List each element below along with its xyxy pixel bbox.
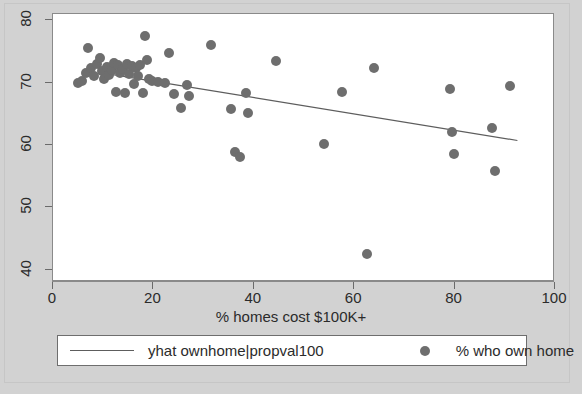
legend-label-scatter: % who own home <box>456 342 574 359</box>
scatter-point <box>206 40 216 50</box>
legend-label-fit-line: yhat ownhome|propval100 <box>148 342 324 359</box>
x-axis-tick <box>253 282 254 289</box>
scatter-point <box>241 88 251 98</box>
scatter-point <box>140 31 150 41</box>
y-axis-tick-label: 40 <box>17 251 34 285</box>
y-axis-tick-label: 70 <box>17 64 34 98</box>
y-axis-tick-label: 50 <box>17 189 34 223</box>
x-axis-tick-label: 100 <box>532 289 576 306</box>
y-axis-tick <box>45 82 52 83</box>
scatter-point <box>235 152 245 162</box>
x-axis-line <box>52 281 554 282</box>
x-axis-tick <box>454 282 455 289</box>
scatter-point <box>447 127 457 137</box>
scatter-point <box>120 88 130 98</box>
y-axis-line <box>52 13 53 281</box>
y-axis-tick-label: 80 <box>17 2 34 36</box>
scatter-point <box>95 53 105 63</box>
legend-line-swatch <box>70 350 134 351</box>
scatter-point <box>487 123 497 133</box>
scatter-point <box>369 63 379 73</box>
chart-figure: 4050607080 020406080100 % homes cost $10… <box>0 0 582 394</box>
x-axis-tick-label: 0 <box>30 289 74 306</box>
scatter-point <box>184 91 194 101</box>
y-axis-tick <box>45 144 52 145</box>
scatter-point <box>160 78 170 88</box>
regression-line <box>53 14 554 281</box>
plot-area <box>52 13 554 281</box>
x-axis-tick-label: 80 <box>432 289 476 306</box>
scatter-point <box>133 71 143 81</box>
scatter-point <box>142 55 152 65</box>
scatter-point <box>271 56 281 66</box>
y-axis-tick <box>45 269 52 270</box>
y-axis-tick <box>45 19 52 20</box>
scatter-point <box>83 43 93 53</box>
scatter-point <box>319 139 329 149</box>
x-axis-tick-label: 60 <box>331 289 375 306</box>
x-axis-title: % homes cost $100K+ <box>0 308 582 325</box>
scatter-point <box>176 103 186 113</box>
chart-legend: yhat ownhome|propval100 % who own home <box>57 335 527 366</box>
x-axis-tick-label: 40 <box>231 289 275 306</box>
legend-entry-scatter: % who own home <box>324 342 574 359</box>
scatter-point <box>164 48 174 58</box>
x-axis-tick <box>353 282 354 289</box>
scatter-point <box>243 108 253 118</box>
y-axis-tick <box>45 206 52 207</box>
legend-entry-fit-line: yhat ownhome|propval100 <box>58 342 324 359</box>
scatter-point <box>182 80 192 90</box>
scatter-point <box>449 149 459 159</box>
x-axis-tick <box>52 282 53 289</box>
x-axis-tick <box>554 282 555 289</box>
legend-marker-swatch <box>420 346 430 356</box>
x-axis-tick-label: 20 <box>130 289 174 306</box>
scatter-point <box>169 89 179 99</box>
y-axis-tick-label: 60 <box>17 126 34 160</box>
x-axis-tick <box>152 282 153 289</box>
scatter-point <box>445 84 455 94</box>
scatter-point <box>226 104 236 114</box>
scatter-point <box>362 249 372 259</box>
scatter-point <box>138 88 148 98</box>
scatter-point <box>490 166 500 176</box>
scatter-point <box>337 87 347 97</box>
scatter-point <box>505 81 515 91</box>
